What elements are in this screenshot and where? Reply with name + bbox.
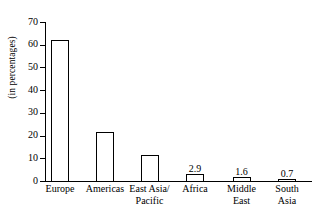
y-tick-label: 70 bbox=[28, 16, 38, 28]
y-axis-line bbox=[45, 22, 46, 182]
bar-chart: (in percentages) 706050403020100 2.91.60… bbox=[0, 0, 318, 220]
bar: 1.6 bbox=[233, 177, 251, 181]
x-axis-line bbox=[45, 181, 312, 182]
bar bbox=[51, 40, 69, 181]
bar-value-label: 0.7 bbox=[281, 168, 294, 179]
y-tick-40: 40 bbox=[40, 90, 45, 91]
y-tick-70: 70 bbox=[40, 22, 45, 23]
y-tick-0: 0 bbox=[40, 181, 45, 182]
y-tick-label: 30 bbox=[28, 106, 38, 118]
y-axis-title: (in percentages) bbox=[7, 13, 18, 123]
bar: 0.7 bbox=[278, 179, 296, 181]
y-tick-label: 40 bbox=[28, 84, 38, 96]
bar bbox=[96, 132, 114, 181]
x-axis-category-label: South Asia bbox=[259, 183, 315, 206]
bar bbox=[141, 155, 159, 181]
y-tick-50: 50 bbox=[40, 67, 45, 68]
y-tick-30: 30 bbox=[40, 113, 45, 114]
bar-value-label: 2.9 bbox=[189, 163, 202, 174]
y-tick-label: 60 bbox=[28, 38, 38, 50]
y-tick-label: 10 bbox=[28, 152, 38, 164]
y-tick-20: 20 bbox=[40, 136, 45, 137]
y-tick-60: 60 bbox=[40, 45, 45, 46]
y-tick-label: 50 bbox=[28, 61, 38, 73]
y-tick-10: 10 bbox=[40, 158, 45, 159]
bar-value-label: 1.6 bbox=[235, 166, 248, 177]
bar: 2.9 bbox=[186, 174, 204, 181]
y-tick-label: 20 bbox=[28, 129, 38, 141]
